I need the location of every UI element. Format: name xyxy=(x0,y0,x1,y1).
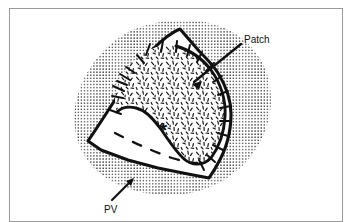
asterisk-marker: * xyxy=(159,118,168,141)
asterisk-glyph: * xyxy=(159,118,168,141)
patch-label: Patch xyxy=(244,34,270,45)
pv-label: PV xyxy=(104,204,118,215)
surgical-illustration: * Patch PV xyxy=(0,0,353,222)
figure-root: * Patch PV xyxy=(0,0,353,222)
